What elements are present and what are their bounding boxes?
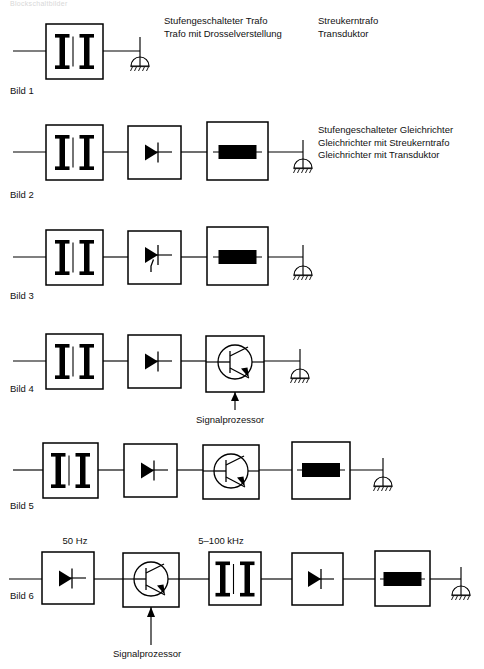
caption-line: Streukerntrafo [318,15,378,28]
battery-icon [384,572,422,586]
diode-icon [145,143,158,163]
caption-row1-col2: Streukerntrafo Transduktor [318,15,378,40]
caption-line: Stufengeschalteter Gleichrichter [318,124,453,137]
block-transformer [209,552,261,605]
transformer-icon [55,240,94,275]
transformer-icon [55,344,94,379]
ground-icon [291,369,310,383]
transformer-icon [216,562,255,597]
transformer-icon [51,453,90,488]
battery-icon [219,145,257,159]
row-label-bild-2: Bild 2 [10,189,34,200]
diode-icon [59,569,72,589]
caption-line: Transduktor [318,28,378,41]
block-diagram-canvas [0,0,484,669]
block-diode-2 [292,553,343,605]
row-label-bild-4: Bild 4 [10,383,34,394]
battery-icon [302,463,340,477]
caption-row1-col1: Stufengeschalteter Trafo Trafo mit Dross… [164,15,282,40]
transistor-icon [134,562,168,596]
row-bild-2 [13,122,313,180]
block-transformer [43,443,98,498]
block-diode [128,335,181,388]
signal-processor-arrow-head [231,392,239,401]
battery-icon [219,250,257,264]
row-bild-4 [13,334,310,410]
block-transistor [203,445,259,499]
block-transistor [206,336,264,392]
row-label-bild-3: Bild 3 [10,290,34,301]
signal-processor-label-row6: Signalprozessor [113,648,181,659]
transformer-icon [55,135,94,170]
frequency-label-5-100khz: 5–100 kHz [176,535,266,546]
ground-icon [374,477,393,491]
row-label-bild-5: Bild 5 [10,500,34,511]
row-bild-5 [13,442,393,499]
block-battery [207,122,268,180]
block-transistor [123,553,179,607]
transistor-icon [214,454,248,488]
caption-line: Stufengeschalteter Trafo [164,15,282,28]
block-battery [375,551,430,606]
transformer-icon [55,34,94,69]
row-bild-6 [9,551,471,645]
row-label-bild-1: Bild 1 [10,85,34,96]
block-battery [292,442,350,499]
caption-line: Gleichrichter mit Transduktor [318,149,453,162]
frequency-label-50hz: 50 Hz [40,535,110,546]
diode-icon [145,352,158,372]
page-header: Blockschaltbilder [10,0,68,7]
row-label-bild-6: Bild 6 [10,590,34,601]
signal-processor-arrow-head [147,607,155,617]
block-thyristor [128,231,181,284]
transistor-icon [218,345,252,379]
block-battery [207,227,268,285]
block-diode-1 [42,552,94,604]
caption-row2-col1: Stufengeschalteter Gleichrichter Gleichr… [318,124,453,162]
block-diode [128,126,181,179]
ground-icon [452,586,471,600]
row-bild-3 [13,227,313,285]
thyristor-icon [145,245,158,272]
row-bild-1 [13,24,150,79]
diagram-page: Blockschaltbilder Bild 1 Bild 2 Bild 3 B… [0,0,484,669]
block-transformer [46,334,103,389]
block-transformer [46,125,103,180]
signal-processor-label-row4: Signalprozessor [196,414,264,425]
ground-icon [131,57,150,71]
ground-icon [294,266,313,280]
block-transformer [46,230,103,285]
block-diode [124,444,177,497]
caption-line: Gleichrichter mit Streukerntrafo [318,137,453,150]
diode-icon [308,569,321,589]
diode-icon [141,461,154,481]
caption-line: Trafo mit Drosselverstellung [164,28,282,41]
block-transformer [46,24,103,79]
ground-icon [294,159,313,173]
